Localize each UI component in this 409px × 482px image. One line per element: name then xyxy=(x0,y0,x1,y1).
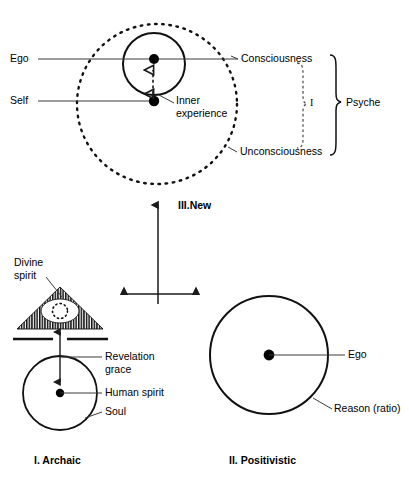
divine-spirit-label-line1: Divine xyxy=(14,256,43,268)
reason-leader-line xyxy=(313,398,332,409)
ego-label-new: Ego xyxy=(10,52,29,64)
psyche-bracket xyxy=(330,55,341,155)
divine-spirit-label-line2: spirit xyxy=(14,269,36,281)
new-caption: III.New xyxy=(178,199,212,211)
self-label: Self xyxy=(10,94,28,106)
positivistic-caption: II. Positivistic xyxy=(229,454,296,466)
soul-label: Soul xyxy=(105,405,126,417)
inner-bracket-dashed xyxy=(297,63,307,148)
ego-dot xyxy=(149,54,159,64)
inner-experience-label-line1: Inner xyxy=(176,94,200,106)
diagram-canvas: Ego Self Consciousness Unconsciousness I… xyxy=(0,0,409,482)
ego-label-positivistic: Ego xyxy=(348,348,367,360)
psyche-models-diagram: Ego Self Consciousness Unconsciousness I… xyxy=(0,0,409,482)
psyche-label: Psyche xyxy=(346,96,381,108)
inner-experience-leader-line xyxy=(159,95,174,103)
self-dot xyxy=(149,96,159,106)
reason-label: Reason (ratio) xyxy=(334,402,401,414)
soul-leader-line xyxy=(85,412,102,418)
human-spirit-label: Human spirit xyxy=(105,386,164,398)
revelation-label-line1: Revelation xyxy=(105,350,155,362)
archaic-caption: I. Archaic xyxy=(34,454,81,466)
inner-experience-label-line2: experience xyxy=(176,107,228,119)
consciousness-label: Consciousness xyxy=(241,52,312,64)
inner-bracket-label: I xyxy=(310,97,313,108)
unconsciousness-label: Unconsciousness xyxy=(240,145,322,157)
divine-spirit-eye-shape xyxy=(41,299,79,323)
unconsciousness-tick xyxy=(228,147,237,152)
revelation-label-line2: grace xyxy=(105,363,131,375)
